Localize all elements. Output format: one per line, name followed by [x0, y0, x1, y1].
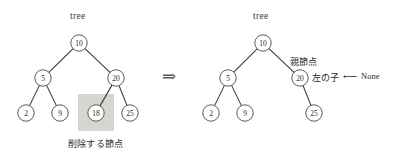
- right-tree-node-20: 20: [292, 70, 308, 86]
- left-tree-node-label: 9: [58, 109, 62, 118]
- right-tree-node-label: 9: [243, 109, 247, 118]
- right-tree-edge: [234, 49, 257, 72]
- right-tree-edge: [303, 86, 311, 106]
- left-tree-node-label: 18: [92, 109, 100, 118]
- left-tree-node-label: 25: [126, 109, 134, 118]
- right-tree-node-25: 25: [306, 105, 322, 121]
- right-tree-node-label: 2: [209, 109, 213, 118]
- left-tree-edge: [47, 85, 57, 105]
- left-tree-node-10: 10: [71, 35, 87, 51]
- left-tree-node-20: 20: [108, 70, 124, 86]
- left-tree-node-label: 5: [41, 74, 45, 83]
- none-value-annotation: None: [361, 71, 379, 81]
- left-tree-node-label: 2: [24, 109, 28, 118]
- left-tree-node-18: 18: [88, 105, 104, 121]
- right-tree-node-label: 10: [259, 39, 267, 48]
- assignment-arrow-icon: ⟵: [343, 72, 357, 82]
- left-tree-node-25: 25: [122, 105, 138, 121]
- left-tree-node-9: 9: [52, 105, 68, 121]
- right-tree-node-5: 5: [220, 70, 236, 86]
- left-tree-edge: [119, 86, 127, 106]
- right-tree-edge: [232, 85, 242, 105]
- left-tree-node-label: 10: [75, 39, 83, 48]
- right-tree-node-label: 25: [310, 109, 318, 118]
- right-tree-node-label: 20: [296, 74, 304, 83]
- left-tree-nodes: 10520291825: [18, 35, 138, 121]
- right-tree-node-10: 10: [255, 35, 271, 51]
- right-tree-node-9: 9: [237, 105, 253, 121]
- left-child-annotation: 左の子: [312, 71, 340, 84]
- right-tree-edge: [215, 85, 225, 105]
- left-tree-edge: [49, 49, 73, 73]
- binary-search-tree-deletion-figure: tree tree 10520291825 105202925 ⇒ 削除する節点…: [0, 0, 400, 159]
- left-tree-edge: [100, 85, 112, 106]
- right-tree-node-label: 5: [226, 74, 230, 83]
- left-tree-edge: [85, 49, 110, 73]
- left-tree-node-label: 20: [112, 74, 120, 83]
- right-tree-node-2: 2: [203, 105, 219, 121]
- tree-graphics-canvas: 10520291825 105202925: [0, 0, 400, 159]
- deleted-node-caption: 削除する節点: [68, 137, 123, 150]
- right-tree-nodes: 105202925: [203, 35, 322, 121]
- transformation-arrow-icon: ⇒: [162, 68, 176, 85]
- left-tree-edge: [30, 85, 40, 105]
- left-tree-node-5: 5: [35, 70, 51, 86]
- left-tree-node-2: 2: [18, 105, 34, 121]
- parent-node-annotation: 親節点: [290, 55, 318, 68]
